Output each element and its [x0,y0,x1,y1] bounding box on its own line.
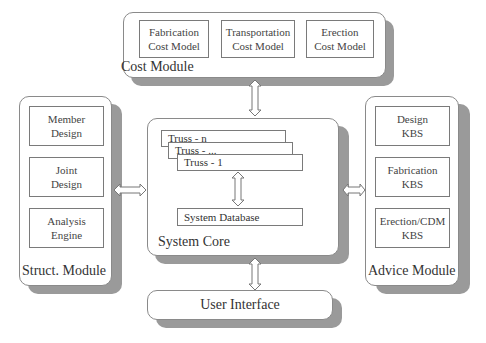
advice-module-label: Advice Module [368,263,455,279]
analysis-engine: Analysis Engine [29,208,104,248]
label: Joint [56,163,77,177]
member-design: Member Design [29,106,104,146]
label: Engine [51,228,82,242]
design-kbs: Design KBS [375,106,450,146]
double-arrow-icon [343,183,365,197]
double-arrow-icon [248,258,262,290]
user-interface-label: User Interface [200,297,280,313]
label: Member [48,112,85,126]
double-arrow-icon [248,80,262,116]
joint-design: Joint Design [29,157,104,197]
label: Fabrication [149,25,199,39]
system-database: System Database [177,208,303,226]
erection-cdm-kbs: Erection/CDM KBS [375,208,450,248]
label: Cost Model [232,39,284,53]
advice-module: Design KBS Fabrication KBS Erection/CDM … [365,96,459,286]
fabrication-kbs: Fabrication KBS [375,157,450,197]
label: Cost Model [314,39,366,53]
erection-cost-model: Erection Cost Model [306,20,374,58]
fabrication-cost-model: Fabrication Cost Model [139,20,209,58]
label: Erection [321,25,358,39]
label: Cost Model [148,39,200,53]
label: Design [51,126,82,140]
label: Design [51,177,82,191]
label: Fabrication [387,163,437,177]
struct-module: Member Design Joint Design Analysis Engi… [19,96,112,286]
label: KBS [402,228,423,242]
struct-module-label: Struct. Module [22,263,106,279]
truss-1: Truss - 1 [177,154,303,171]
label: KBS [402,126,423,140]
cost-module-label: Cost Module [121,59,194,75]
cost-module: Fabrication Cost Model Transportation Co… [123,12,386,78]
user-interface: User Interface [147,290,333,320]
double-arrow-icon [114,183,146,197]
system-core-label: System Core [158,234,230,250]
double-arrow-icon [231,172,245,206]
transportation-cost-model: Transportation Cost Model [221,20,295,58]
label: Erection/CDM [380,214,445,228]
label: KBS [402,177,423,191]
label: Analysis [47,214,86,228]
label: Design [397,112,428,126]
label: Transportation [226,25,290,39]
